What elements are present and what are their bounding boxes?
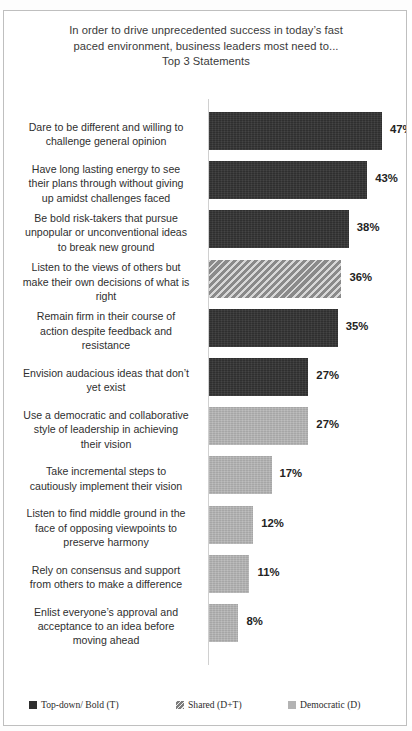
bar-track: 27% [209,407,407,445]
bar-t[interactable] [209,358,308,396]
bar-category-label: Have long lasting energy to see their pl… [12,162,200,205]
legend-swatch-icon-shared [176,701,184,709]
bar-value-label: 36% [349,271,372,283]
bar-track: 35% [209,309,407,347]
chart-title: In order to drive unprecedented success … [4,23,407,70]
bar-row: Dare to be different and willing to chal… [4,108,407,156]
legend-label-democratic: Democratic (D) [300,699,360,710]
bar-row: Listen to the views of others but make t… [4,256,407,304]
legend-item-shared[interactable]: Shared (D+T) [176,699,242,710]
chart-legend: Top-down/ Bold (T) Shared (D+T) Democrat… [4,699,407,717]
bar-value-label: 47% [390,123,407,135]
bar-category-label: Take incremental steps to cautiously imp… [12,464,200,493]
bar-d[interactable] [209,555,249,593]
bar-d[interactable] [209,604,238,642]
legend-item-top-down-bold[interactable]: Top-down/ Bold (T) [29,699,119,710]
bar-t[interactable] [209,210,349,248]
bar-d[interactable] [209,407,308,445]
bar-track: 27% [209,358,407,396]
bar-category-label: Use a democratic and collaborative style… [12,408,200,451]
bar-row: Use a democratic and collaborative style… [4,403,407,451]
bar-track: 38% [209,210,407,248]
bar-row: Enlist everyone’s approval and acceptanc… [4,600,407,648]
bar-t[interactable] [209,161,367,199]
bar-track: 12% [209,506,407,544]
legend-item-democratic[interactable]: Democratic (D) [288,699,360,710]
bar-value-label: 17% [280,467,303,479]
legend-label-shared: Shared (D+T) [188,699,242,710]
bar-d[interactable] [209,456,272,494]
bar-category-label: Rely on consensus and support from other… [12,563,200,592]
chart-title-line-3: Top 3 Statements [4,54,407,70]
bar-value-label: 43% [375,172,398,184]
bar-value-label: 11% [257,566,279,578]
bar-row: Envision audacious ideas that don’t yet … [4,354,407,402]
bar-row: Have long lasting energy to see their pl… [4,157,407,205]
bar-value-label: 12% [261,517,284,529]
bar-track: 17% [209,456,407,494]
bar-value-label: 27% [316,369,339,381]
legend-label-top-down: Top-down/ Bold (T) [41,699,119,710]
bar-track: 47% [209,112,407,150]
bar-value-label: 27% [316,418,339,430]
bar-row: Remain firm in their course of action de… [4,305,407,353]
bar-category-label: Envision audacious ideas that don’t yet … [12,366,200,395]
bar-category-label: Be bold risk-takers that pursue unpopula… [12,211,200,254]
bar-category-label: Listen to the views of others but make t… [12,260,200,303]
bar-category-label: Listen to find middle ground in the face… [12,506,200,549]
bar-track: 8% [209,604,407,642]
bar-value-label: 8% [246,615,262,627]
scan-margin-bottom [0,726,412,731]
bar-row: Listen to find middle ground in the face… [4,502,407,550]
chart-frame: In order to drive unprecedented success … [3,10,407,726]
bar-t[interactable] [209,309,338,347]
bar-track: 11% [209,555,407,593]
chart-title-line-2: paced environment, business leaders most… [4,39,407,55]
chart-title-line-1: In order to drive unprecedented success … [4,23,407,39]
plot-area: Dare to be different and willing to chal… [4,97,407,667]
scan-margin-top [0,0,412,10]
bar-d[interactable] [209,506,253,544]
bar-row: Rely on consensus and support from other… [4,551,407,599]
bar-track: 36% [209,260,407,298]
bar-category-label: Dare to be different and willing to chal… [12,120,200,149]
bar-value-label: 38% [357,221,380,233]
bar-category-label: Remain firm in their course of action de… [12,309,200,352]
bar-t[interactable] [209,112,382,150]
bar-track: 43% [209,161,407,199]
bar-row: Take incremental steps to cautiously imp… [4,452,407,500]
legend-swatch-icon-democratic [288,701,296,709]
bar-value-label: 35% [346,320,369,332]
legend-swatch-icon-top-down [29,701,37,709]
bar-d-t[interactable] [209,260,341,298]
bar-row: Be bold risk-takers that pursue unpopula… [4,206,407,254]
bar-category-label: Enlist everyone’s approval and acceptanc… [12,605,200,648]
